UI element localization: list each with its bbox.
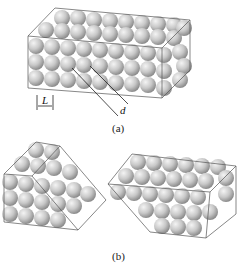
caption-panel-a: (a): [112, 122, 124, 134]
panel-b-right-block: [108, 154, 236, 238]
panel-a-lattice: L d: [28, 8, 192, 116]
caption-panel-b: (b): [112, 250, 125, 262]
label-d: d: [120, 104, 126, 116]
panel-b-left-block: [2, 142, 106, 230]
label-L: L: [41, 94, 48, 106]
crystal-lattice-figure: L d: [0, 0, 243, 271]
